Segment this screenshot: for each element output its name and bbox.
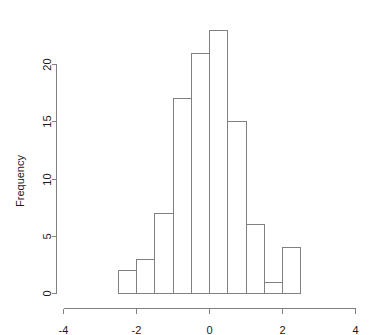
- histogram-bar: [228, 122, 247, 294]
- histogram-bar: [155, 214, 174, 294]
- histogram-canvas: 05101520 -4-2024 Frequency: [0, 0, 374, 335]
- x-axis-tick-label: -4: [59, 324, 69, 335]
- histogram-bars: [119, 31, 301, 294]
- histogram-bar: [137, 260, 155, 294]
- histogram-bar: [265, 283, 283, 294]
- y-axis: 05101520: [41, 58, 57, 296]
- histogram-plot-panel: 05101520 -4-2024 Frequency: [0, 0, 374, 335]
- x-axis-tick-label: -2: [132, 324, 142, 335]
- histogram-bar: [119, 271, 137, 294]
- histogram-bar: [210, 31, 228, 294]
- y-axis-title: Frequency: [14, 155, 26, 207]
- y-axis-tick-label: 0: [41, 290, 53, 296]
- x-axis: -4-2024: [59, 309, 359, 335]
- histogram-bar: [283, 248, 301, 294]
- histogram-bar: [192, 54, 210, 294]
- histogram-bar: [174, 99, 192, 294]
- x-axis-tick-label: 2: [279, 324, 285, 335]
- y-axis-tick-label: 15: [41, 115, 53, 127]
- y-axis-tick-label: 10: [41, 173, 53, 185]
- x-axis-tick-label: 4: [352, 324, 358, 335]
- histogram-bar: [247, 225, 265, 294]
- x-axis-tick-label: 0: [206, 324, 212, 335]
- y-axis-tick-label: 20: [41, 58, 53, 70]
- y-axis-tick-label: 5: [41, 233, 53, 239]
